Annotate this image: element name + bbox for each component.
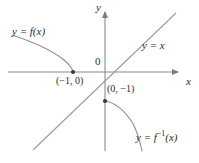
label-point-zero-minus-one: (0, −1) (107, 84, 134, 94)
curve-f-inverse (105, 101, 142, 151)
inverse-function-figure: y = f(x) y = x y = f−1(x) 0 (−1, 0) (0, … (0, 0, 199, 163)
label-identity-line: y = x (142, 40, 165, 51)
label-axis-x: x (186, 76, 191, 87)
label-origin: 0 (95, 56, 101, 67)
label-inverse-curve: y = f−1(x) (136, 130, 178, 143)
label-inverse-suffix: (x) (165, 131, 177, 143)
point-marker-minus-one-zero (71, 70, 75, 74)
label-function-curve: y = f(x) (12, 26, 45, 37)
label-point-minus-one-zero: (−1, 0) (56, 76, 83, 86)
label-axis-y: y (96, 2, 101, 13)
point-marker-zero-minus-one (103, 99, 107, 103)
curve-f (12, 35, 73, 72)
label-inverse-prefix: y = f (136, 131, 157, 143)
